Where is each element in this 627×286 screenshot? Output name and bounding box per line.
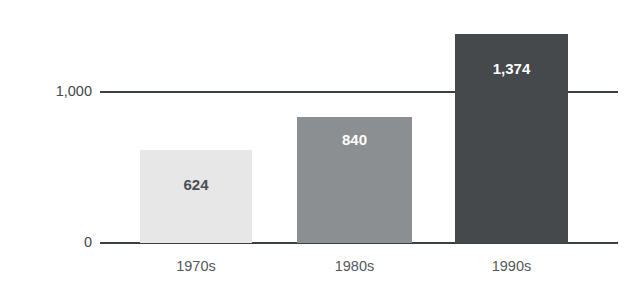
bar-value-label-1980s: 840	[297, 131, 412, 148]
bar-chart: Square miles per year 1,000 0 624 840 1,…	[0, 0, 627, 286]
bar-1980s[interactable]: 840	[297, 117, 412, 243]
bar-1970s[interactable]: 624	[140, 150, 252, 243]
bar-value-label-1970s: 624	[140, 176, 252, 193]
x-axis-category-label-1970s: 1970s	[140, 258, 252, 274]
x-axis-category-label-1990s: 1990s	[455, 258, 568, 274]
bar-value-label-1990s: 1,374	[455, 60, 568, 77]
plot-area: 624 840 1,374 1970s 1980s 1990s	[0, 0, 627, 286]
x-axis-category-label-1980s: 1980s	[297, 258, 412, 274]
bar-1990s[interactable]: 1,374	[455, 34, 568, 243]
